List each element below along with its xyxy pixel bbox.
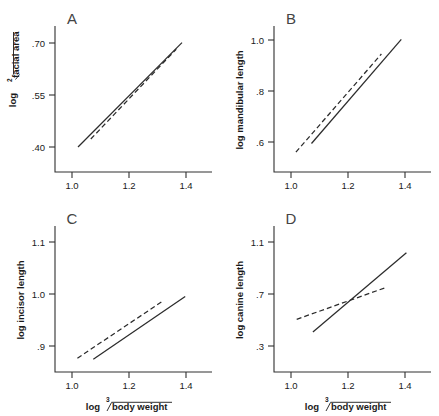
y-tick-label: 1.1 — [32, 237, 45, 248]
dashed-regression-line — [296, 54, 382, 152]
panel-d-x-ticks: 1.0 1.2 1.4 — [284, 372, 411, 391]
y-tick-label: 1.1 — [251, 237, 264, 248]
panel-a-y-axis-title: log 2 facial area — [6, 31, 21, 107]
panel-c-x-axis-title: log 3 body weight — [86, 396, 172, 413]
solid-regression-line — [78, 43, 182, 147]
panel-letter: D — [286, 210, 297, 227]
x-axis-title-prefix: log — [86, 401, 100, 412]
panel-c-plot: 1.1 1.0 .9 1.0 1.2 1.4 log incisor lengt… — [0, 208, 219, 416]
x-tick-label: 1.0 — [284, 180, 297, 191]
y-axis-title-radicand: facial area — [10, 31, 21, 78]
x-axis-title-index: 3 — [106, 396, 110, 403]
x-tick-label: 1.2 — [341, 380, 354, 391]
panel-b-plot: 1.0 .8 .6 1.0 1.2 1.4 log mandibular len… — [219, 0, 438, 208]
panel-d-plot: 1.1 .7 .3 1.0 1.2 1.4 log canine length … — [219, 208, 438, 416]
panel-b-x-ticks: 1.0 1.2 1.4 — [284, 172, 411, 191]
solid-regression-line — [93, 296, 185, 359]
dashed-regression-line — [297, 287, 387, 319]
panel-c: 1.1 1.0 .9 1.0 1.2 1.4 log incisor lengt… — [0, 208, 219, 416]
y-tick-label: .3 — [256, 341, 264, 352]
x-tick-label: 1.4 — [398, 180, 411, 191]
panel-d: 1.1 .7 .3 1.0 1.2 1.4 log canine length … — [219, 208, 438, 416]
x-tick-label: 1.2 — [122, 380, 135, 391]
panel-d-y-ticks: 1.1 .7 .3 — [251, 237, 274, 352]
axis-frame — [55, 226, 212, 372]
panel-b-data-lines — [296, 39, 401, 152]
panel-a-plot: .70 .55 .40 1.0 1.2 1.4 log 2 facial are… — [0, 0, 219, 208]
panel-letter: C — [67, 210, 78, 227]
panel-d-x-axis-title: log 3 body weight — [305, 396, 391, 413]
panel-a-y-ticks: .70 .55 .40 — [32, 38, 55, 153]
panel-a-axes — [55, 26, 212, 172]
dashed-regression-line — [91, 49, 176, 139]
panel-b: 1.0 .8 .6 1.0 1.2 1.4 log mandibular len… — [219, 0, 438, 208]
y-axis-title: log mandibular length — [234, 50, 245, 149]
panel-c-data-lines — [77, 296, 185, 359]
panel-a-x-ticks: 1.0 1.2 1.4 — [65, 172, 192, 191]
y-tick-label: .40 — [32, 142, 45, 153]
x-tick-label: 1.4 — [179, 380, 192, 391]
y-tick-label: .55 — [32, 90, 45, 101]
panel-a: .70 .55 .40 1.0 1.2 1.4 log 2 facial are… — [0, 0, 219, 208]
y-axis-title-prefix: log — [7, 93, 18, 107]
y-tick-label: .8 — [256, 86, 264, 97]
solid-regression-line — [313, 253, 407, 332]
axis-frame — [55, 26, 212, 172]
x-tick-label: 1.0 — [65, 380, 78, 391]
y-axis-title: log incisor length — [15, 260, 26, 339]
panel-c-y-ticks: 1.1 1.0 .9 — [32, 237, 55, 352]
panel-c-axes — [55, 226, 212, 372]
panel-b-y-ticks: 1.0 .8 .6 — [251, 35, 274, 148]
y-axis-title: log canine length — [234, 261, 245, 339]
panel-d-data-lines — [297, 253, 407, 332]
y-tick-label: 1.0 — [251, 35, 264, 46]
x-axis-title-prefix: log — [305, 401, 319, 412]
x-tick-label: 1.0 — [65, 180, 78, 191]
four-panel-figure: .70 .55 .40 1.0 1.2 1.4 log 2 facial are… — [0, 0, 439, 416]
x-tick-label: 1.4 — [398, 380, 411, 391]
x-tick-label: 1.2 — [341, 180, 354, 191]
dashed-regression-line — [77, 301, 162, 358]
panel-a-data-lines — [78, 43, 182, 147]
x-axis-title-index: 3 — [325, 396, 329, 403]
panel-letter: B — [286, 10, 296, 27]
y-tick-label: .70 — [32, 38, 45, 49]
panel-letter: A — [67, 10, 77, 27]
solid-regression-line — [312, 39, 402, 143]
radical-stroke-icon — [107, 403, 112, 412]
x-tick-label: 1.0 — [284, 380, 297, 391]
y-tick-label: .7 — [256, 289, 264, 300]
x-tick-label: 1.2 — [122, 180, 135, 191]
radical-stroke-icon — [326, 403, 331, 412]
y-tick-label: .6 — [256, 137, 264, 148]
panel-c-x-ticks: 1.0 1.2 1.4 — [65, 372, 192, 391]
x-tick-label: 1.4 — [179, 180, 192, 191]
y-tick-label: 1.0 — [32, 289, 45, 300]
y-tick-label: .9 — [37, 341, 45, 352]
